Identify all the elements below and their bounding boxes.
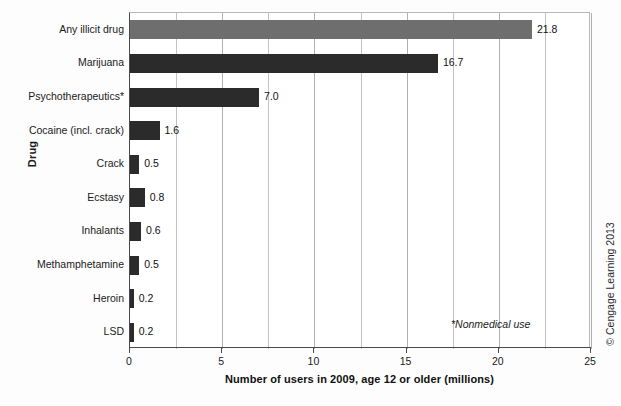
category-label: Cocaine (incl. crack) — [18, 124, 124, 136]
x-tick-label: 20 — [478, 355, 518, 367]
x-axis-title: Number of users in 2009, age 12 or older… — [129, 373, 590, 385]
category-label-column: Any illicit drugMarijuanaPsychotherapeut… — [18, 12, 124, 348]
bar-value-label: 16.7 — [443, 57, 463, 68]
copyright-notice: © Cengage Learning 2013 — [604, 204, 616, 364]
bar-value-label: 0.5 — [144, 158, 159, 169]
bar — [130, 155, 139, 174]
bar-chart-figure: Drug Any illicit drugMarijuanaPsychother… — [0, 0, 621, 406]
x-tick — [590, 348, 591, 353]
gridline — [545, 13, 546, 349]
bar — [130, 121, 160, 140]
bar-value-label: 0.5 — [144, 259, 159, 270]
x-tick-label: 0 — [109, 355, 149, 367]
x-tick — [406, 348, 407, 353]
x-tick-label: 15 — [386, 355, 426, 367]
x-tick — [129, 348, 130, 353]
category-label: Heroin — [18, 292, 124, 304]
bar — [130, 188, 145, 207]
plot-area: 21.816.77.01.60.50.80.60.50.20.2 — [129, 12, 590, 348]
bar — [130, 88, 259, 107]
x-tick — [221, 348, 222, 353]
x-tick-label: 5 — [201, 355, 241, 367]
bar-value-label: 21.8 — [537, 24, 557, 35]
bar-value-label: 0.2 — [139, 293, 154, 304]
category-label: Marijuana — [18, 56, 124, 68]
x-axis-line — [129, 347, 591, 348]
bar-value-label: 0.8 — [150, 192, 165, 203]
x-tick — [313, 348, 314, 353]
x-tick — [498, 348, 499, 353]
bar — [130, 323, 134, 342]
gridline — [499, 13, 500, 349]
bar — [130, 222, 141, 241]
category-label: LSD — [18, 325, 124, 337]
bar — [130, 289, 134, 308]
bar-value-label: 1.6 — [165, 125, 180, 136]
category-label: Crack — [18, 157, 124, 169]
category-label: Any illicit drug — [18, 23, 124, 35]
footnote-nonmedical-use: *Nonmedical use — [451, 318, 530, 330]
bar-value-label: 7.0 — [264, 91, 279, 102]
bar-value-label: 0.2 — [139, 326, 154, 337]
category-label: Methamphetamine — [18, 258, 124, 270]
bar — [130, 20, 532, 39]
gridline — [591, 13, 592, 349]
bar — [130, 54, 438, 73]
category-label: Psychotherapeutics* — [18, 90, 124, 102]
category-label: Inhalants — [18, 224, 124, 236]
bar-value-label: 0.6 — [146, 225, 161, 236]
x-tick-label: 10 — [293, 355, 333, 367]
category-label: Ecstasy — [18, 191, 124, 203]
bar — [130, 256, 139, 275]
